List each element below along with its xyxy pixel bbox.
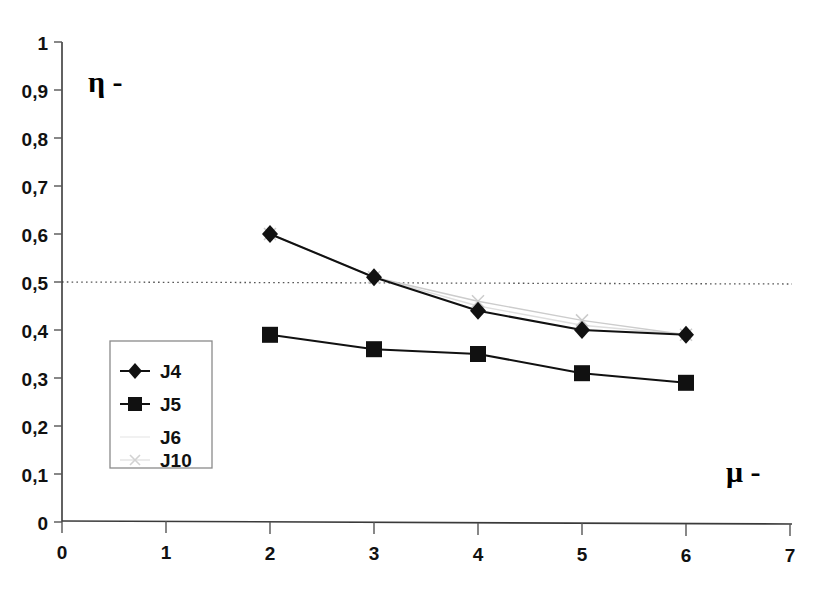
legend-item-j5[interactable]: J5: [120, 394, 182, 415]
x-tick-label-5: 5: [577, 544, 588, 565]
reference-line-0.5: [62, 282, 792, 284]
legend-label-j5: J5: [160, 394, 182, 415]
datapoint-j5-3: [366, 341, 382, 357]
y-axis-tick-labels: 1 0,9 0,8 0,7 0,6 0,5 0,4 0,3 0,2 0,1 0: [22, 33, 49, 534]
square-marker-icon: [128, 397, 142, 411]
y-tick-label-5: 0,5: [22, 273, 49, 294]
series-j10: [264, 228, 692, 341]
y-tick-label-0: 0: [37, 513, 48, 534]
datapoint-j5-2: [262, 327, 278, 343]
y-tick-label-2: 0,2: [22, 417, 48, 438]
x-axis-tick-labels: 0 1 2 3 4 5 6 7: [57, 542, 796, 566]
x-tick-label-2: 2: [265, 543, 276, 564]
y-tick-label-1: 0,1: [22, 465, 49, 486]
reference-line-group: [62, 282, 792, 284]
chart-container: 1 0,9 0,8 0,7 0,6 0,5 0,4 0,3 0,2 0,1 0 …: [0, 0, 833, 614]
line-chart-svg: 1 0,9 0,8 0,7 0,6 0,5 0,4 0,3 0,2 0,1 0 …: [0, 0, 833, 614]
datapoint-j5-5: [574, 365, 590, 381]
series-j4: [262, 225, 694, 344]
data-series-layer: [262, 225, 694, 391]
datapoint-j5-4: [470, 346, 486, 362]
x-axis-title: μ -: [726, 455, 761, 488]
series-j5: [262, 327, 694, 391]
legend-label-j10: J10: [160, 450, 192, 471]
x-axis: 0 1 2 3 4 5 6 7 μ -: [57, 455, 796, 566]
y-axis-title: η -: [88, 65, 123, 98]
legend-item-j6[interactable]: J6: [120, 427, 181, 448]
y-tick-label-6: 0,6: [22, 225, 48, 246]
legend-label-j6: J6: [160, 427, 181, 448]
legend-item-j4[interactable]: J4: [120, 361, 182, 382]
x-tick-label-6: 6: [681, 545, 692, 566]
legend-label-j4: J4: [160, 361, 182, 382]
y-axis-ticks: [54, 42, 62, 522]
x-tick-label-1: 1: [161, 542, 172, 563]
x-tick-label-7: 7: [785, 545, 796, 566]
y-tick-label-7: 0,7: [22, 177, 48, 198]
legend: J4 J5 J6 J10: [110, 341, 212, 471]
x-tick-label-3: 3: [369, 543, 380, 564]
y-tick-label-3: 0,3: [22, 369, 48, 390]
x-tick-label-0: 0: [57, 542, 68, 563]
y-tick-label-4: 0,4: [22, 321, 49, 342]
y-tick-label-9: 0,9: [22, 81, 48, 102]
y-tick-label-8: 0,8: [22, 129, 48, 150]
x-tick-label-4: 4: [473, 544, 484, 565]
y-axis: 1 0,9 0,8 0,7 0,6 0,5 0,4 0,3 0,2 0,1 0 …: [22, 33, 123, 534]
diamond-marker-icon: [128, 363, 142, 379]
datapoint-j5-6: [678, 375, 694, 391]
y-tick-label-10: 1: [37, 33, 48, 54]
x-axis-line: [62, 521, 792, 524]
